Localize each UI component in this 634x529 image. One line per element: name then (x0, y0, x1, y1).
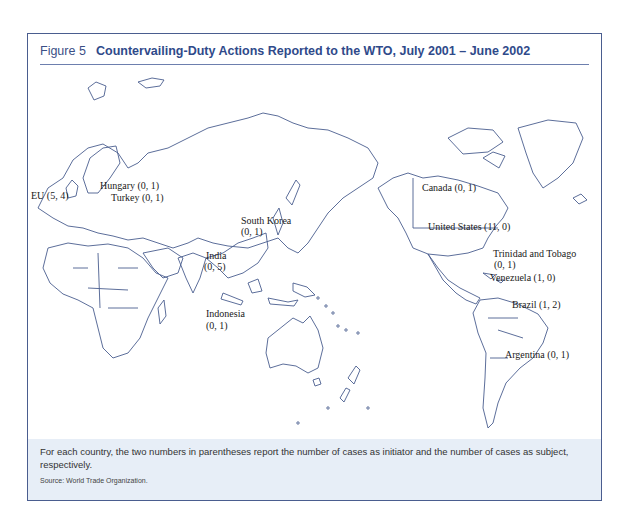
label-venezuela: Venezuela (1, 0) (490, 272, 555, 283)
label-indonesia-name: Indonesia (206, 308, 245, 319)
label-south-korea-name: South Korea (241, 215, 291, 226)
figure-frame: Figure 5 Countervailing-Duty Actions Rep… (27, 33, 602, 501)
label-india-name: India (206, 250, 227, 261)
figure-number: Figure 5 (40, 44, 86, 58)
figure-header: Figure 5 Countervailing-Duty Actions Rep… (40, 42, 589, 65)
label-canada: Canada (0, 1) (422, 182, 476, 193)
label-indonesia-values: (0, 1) (206, 320, 228, 331)
caption-panel: For each country, the two numbers in par… (28, 439, 601, 500)
label-united-states: United States (11, 0) (428, 221, 510, 232)
label-south-korea-values: (0, 1) (241, 226, 263, 237)
label-trinidad-values: (0, 1) (494, 259, 516, 270)
figure-title: Countervailing-Duty Actions Reported to … (96, 44, 530, 58)
source-note: Source: World Trade Organization. (40, 477, 148, 484)
label-turkey: Turkey (0, 1) (111, 192, 164, 203)
label-eu: EU (5, 4) (31, 190, 69, 201)
world-map: EU (5, 4) Hungary (0, 1) Turkey (0, 1) S… (28, 68, 601, 440)
label-trinidad-name: Trinidad and Tobago (493, 248, 576, 259)
caption-note: For each country, the two numbers in par… (40, 445, 589, 471)
label-hungary: Hungary (0, 1) (100, 180, 159, 191)
label-india-values: (0, 5) (204, 261, 226, 272)
label-argentina: Argentina (0, 1) (505, 349, 569, 360)
label-brazil: Brazil (1, 2) (512, 299, 561, 310)
